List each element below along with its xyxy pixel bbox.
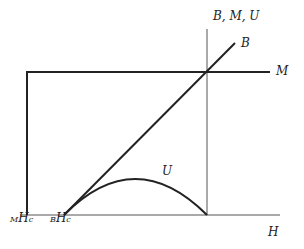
b-c: c xyxy=(66,215,70,224)
b-curve-label: B xyxy=(241,36,250,50)
m-curve-label: M xyxy=(276,64,288,78)
m-sub: M xyxy=(10,215,18,224)
diagram-canvas: B, M, U B M U H MHc BHc xyxy=(0,0,304,249)
m-h: H xyxy=(18,211,28,225)
m-c: c xyxy=(29,215,33,224)
y-axis-label: B, M, U xyxy=(213,9,259,23)
x-axis-label: H xyxy=(268,225,278,239)
m-coercivity-label: MHc xyxy=(10,211,33,225)
m-curve xyxy=(27,72,270,215)
u-curve-label: U xyxy=(162,164,172,178)
b-h: H xyxy=(56,211,66,225)
diagram-svg xyxy=(0,0,304,249)
b-coercivity-label: BHc xyxy=(50,211,71,225)
u-curve xyxy=(64,179,207,215)
b-curve xyxy=(64,43,235,215)
